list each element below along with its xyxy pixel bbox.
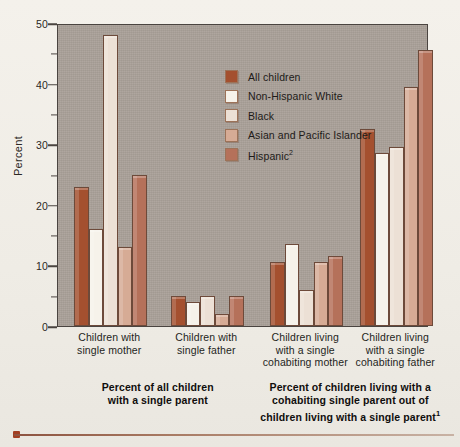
x-category-label-3: Children livingwith a singlecohabiting m… (253, 331, 357, 369)
bar-shading (133, 176, 137, 326)
y-tick-major-10 (48, 266, 57, 268)
y-tick-major-0 (48, 326, 57, 328)
x-category-label-3-line-3: cohabiting mother (253, 356, 357, 369)
bar-3-3 (299, 290, 314, 326)
x-category-label-2: Children withsingle father (154, 331, 258, 356)
bar-2-4 (215, 314, 230, 326)
legend-item-5: Hispanic2 (225, 145, 425, 165)
bar-shading (230, 297, 234, 325)
section-caption-1-line-1: Percent of all children (53, 381, 263, 394)
bar-2-5 (229, 296, 244, 326)
section-caption-2-superscript: 1 (436, 409, 440, 418)
legend-item-1: All children (225, 67, 425, 87)
y-tick-major-40 (48, 84, 57, 86)
bar-shading (187, 303, 191, 325)
x-category-label-4-line-3: cohabiting father (343, 356, 447, 369)
legend-label-3: Black (248, 110, 274, 122)
x-category-label-3-line-1: Children living (253, 331, 357, 344)
bar-3-4 (314, 262, 329, 326)
legend-superscript-5: 2 (289, 149, 293, 156)
legend-swatch-4 (225, 129, 238, 142)
section-caption-2-line-2: cohabiting single parent out of (235, 394, 460, 407)
y-tick-label-10: 10 (36, 260, 48, 272)
chart-legend: All childrenNon-Hispanic WhiteBlackAsian… (225, 67, 425, 165)
legend-swatch-1 (225, 70, 238, 83)
section-caption-1: Percent of all childrenwith a single par… (53, 381, 263, 407)
section-captions: Percent of all childrenwith a single par… (0, 381, 460, 429)
bar-shading (90, 230, 94, 325)
x-category-label-3-line-2: with a single (253, 344, 357, 357)
x-category-label-1-line-1: Children with (57, 331, 161, 344)
bar-group-1 (74, 25, 147, 326)
bar-3-2 (285, 244, 300, 326)
legend-label-5: Hispanic2 (248, 149, 293, 162)
legend-swatch-5 (225, 148, 238, 161)
bar-shading (216, 315, 220, 325)
y-tick-major-20 (48, 205, 57, 207)
chart-figure: Percent 01020304050 All childrenNon-Hisp… (0, 0, 460, 447)
bar-4-3 (389, 147, 404, 326)
x-category-label-2-line-2: single father (154, 344, 258, 357)
bar-shading (315, 263, 319, 325)
bar-2-3 (200, 296, 215, 326)
legend-item-3: Black (225, 106, 425, 126)
bar-shading (201, 297, 205, 325)
y-tick-label-20: 20 (36, 200, 48, 212)
bar-3-1 (270, 262, 285, 326)
y-axis: Percent 01020304050 (0, 0, 57, 330)
bar-1-2 (89, 229, 104, 326)
legend-label-1: All children (248, 71, 301, 83)
bar-shading (172, 297, 176, 325)
legend-item-2: Non-Hispanic White (225, 87, 425, 107)
legend-swatch-3 (225, 109, 238, 122)
bar-1-3 (103, 35, 118, 326)
bar-4-2 (375, 153, 390, 326)
y-tick-major-30 (48, 144, 57, 146)
bar-1-1 (74, 187, 89, 326)
x-category-label-4-line-1: Children living (343, 331, 447, 344)
bar-shading (390, 148, 394, 325)
section-caption-1-line-2: with a single parent (53, 394, 263, 407)
bar-shading (286, 245, 290, 325)
x-axis-category-labels: Children withsingle motherChildren withs… (57, 331, 428, 377)
x-category-label-1-line-2: single mother (57, 344, 161, 357)
plot-area: All childrenNon-Hispanic WhiteBlackAsian… (57, 24, 428, 327)
legend-label-2: Non-Hispanic White (248, 90, 343, 102)
bar-1-4 (118, 247, 133, 326)
legend-label-4: Asian and Pacific Islander (248, 129, 371, 141)
bar-shading (104, 36, 108, 325)
bar-shading (75, 188, 79, 325)
bar-3-5 (328, 256, 343, 326)
x-category-label-2-line-1: Children with (154, 331, 258, 344)
bar-1-5 (132, 175, 147, 327)
bar-shading (376, 154, 380, 325)
bar-shading (271, 263, 275, 325)
y-tick-label-30: 30 (36, 139, 48, 151)
x-category-label-4: Children livingwith a singlecohabiting f… (343, 331, 447, 369)
bottom-divider-rule (14, 434, 454, 436)
legend-item-4: Asian and Pacific Islander (225, 126, 425, 146)
bar-2-1 (171, 296, 186, 326)
section-caption-2-line-1: Percent of children living with a (235, 381, 460, 394)
section-caption-2: Percent of children living with acohabit… (235, 381, 460, 424)
bar-shading (119, 248, 123, 325)
y-axis-title: Percent (12, 121, 24, 191)
section-caption-2-line-3: children living with a single parent1 (235, 407, 460, 424)
x-category-label-1: Children withsingle mother (57, 331, 161, 356)
y-tick-label-50: 50 (36, 18, 48, 30)
bar-shading (329, 257, 333, 325)
bar-shading (300, 291, 304, 325)
y-tick-label-40: 40 (36, 79, 48, 91)
y-tick-major-50 (48, 23, 57, 25)
legend-swatch-2 (225, 90, 238, 103)
bar-2-2 (186, 302, 201, 326)
x-category-label-4-line-2: with a single (343, 344, 447, 357)
